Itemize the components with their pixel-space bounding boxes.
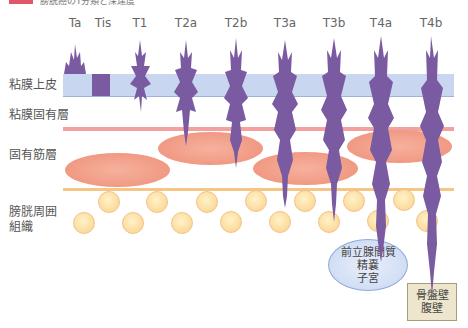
tumor-t3b — [321, 38, 347, 222]
tumor-t4b — [420, 36, 444, 296]
tumor-spikes — [0, 0, 468, 328]
tumor-t1 — [130, 40, 151, 112]
tumor-ta — [64, 44, 86, 74]
tumor-t2b — [224, 38, 248, 168]
tumor-t3a — [272, 40, 298, 208]
tumor-t2a — [174, 40, 198, 146]
tumor-t4a — [368, 36, 394, 262]
